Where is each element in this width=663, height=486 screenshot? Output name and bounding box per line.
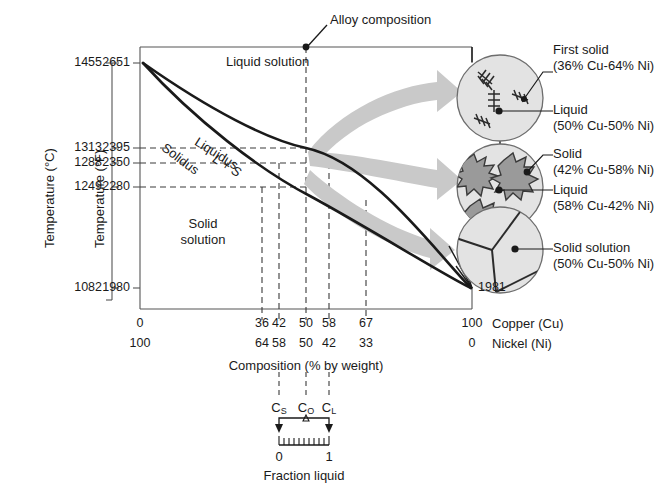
phase-diagram-figure: Temperature (°C) Temperature (°F) 1455 1… [0,0,663,486]
lever-label-co-sub: O [307,406,314,416]
callout-liquid-top-title: Liquid [553,102,588,117]
composition-axis-title: Composition (% by weight) [200,358,412,373]
x-tick-ni-42: 42 [315,336,343,351]
x-tick-cu-58: 58 [315,316,343,331]
x-tick-ni-100: 100 [126,336,154,351]
x-tick-cu-42: 42 [265,316,293,331]
x-tick-cu-0: 0 [126,316,154,331]
x-tick-ni-0: 0 [458,336,486,351]
solid-solution-region-label-line2: solution [168,232,238,247]
lever-label-cs-sub: S [281,406,287,416]
lever-guide-lines [279,372,329,398]
callout-solid-solution-title: Solid solution [553,240,630,255]
microstructure-circle-first-solid [457,55,553,141]
copper-axis-label: Copper (Cu) [492,316,564,331]
fahrenheit-tick-2651: 2651 [72,55,130,70]
callout-solid-mid-title: Solid [553,146,582,161]
x-tick-ni-33: 33 [352,336,380,351]
fahrenheit-tick-2395: 2395 [72,140,130,155]
callout-solid-solution-detail: (50% Cu-50% Ni) [553,256,654,271]
fahrenheit-tick-2350: 2350 [72,155,130,170]
lever-label-cs: CS [265,400,293,417]
callout-solid-mid-detail: (42% Cu-58% Ni) [553,162,654,177]
x-tick-cu-100: 100 [458,316,486,331]
callout-liquid-mid-detail: (58% Cu-42% Ni) [553,198,654,213]
callout-liquid-top-detail: (50% Cu-50% Ni) [553,118,654,133]
callout-first-solid-detail: (36% Cu-64% Ni) [553,58,654,73]
liquid-solution-region-label: Liquid solution [226,54,309,69]
callout-liquid-mid-title: Liquid [553,182,588,197]
nickel-axis-label: Nickel (Ni) [492,336,552,351]
fraction-scale-max: 1 [316,449,342,464]
process-arrows [304,70,462,270]
fraction-scale-min: 0 [266,449,292,464]
callout-first-solid-title: First solid [553,42,609,57]
alloy-composition-label: Alloy composition [330,12,431,27]
fahrenheit-tick-1980: 1980 [72,280,130,295]
lever-label-cl: CL [315,400,343,417]
x-tick-cu-67: 67 [352,316,380,331]
fahrenheit-endpoint-1981: 1981 [478,280,506,295]
x-tick-ni-58: 58 [265,336,293,351]
solid-solution-region-label-line1: Solid [168,216,238,231]
fraction-liquid-caption: Fraction liquid [244,468,364,483]
lever-label-cl-sub: L [331,406,336,416]
lever-rule-graphics [275,415,333,445]
fahrenheit-tick-2280: 2280 [72,179,130,194]
